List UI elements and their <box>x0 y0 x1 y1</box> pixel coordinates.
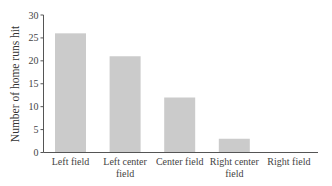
x-axis-labels: Left fieldLeft centerfieldCenter fieldRi… <box>52 156 311 179</box>
bar-center-field <box>164 98 195 153</box>
x-category-label: Right field <box>267 156 310 167</box>
y-tick-label: 0 <box>34 147 39 158</box>
bar-left-center-field <box>110 56 141 152</box>
x-category-label: Right center <box>210 156 260 167</box>
y-tick-label: 15 <box>29 78 39 89</box>
y-tick-label: 5 <box>34 124 39 135</box>
x-category-label: field <box>225 168 243 179</box>
y-tick-label: 25 <box>29 32 39 43</box>
y-axis-title: Number of home runs hit <box>9 25 21 142</box>
y-tick-label: 20 <box>29 55 39 66</box>
bar-chart: Number of home runs hit 051015202530 Lef… <box>0 0 332 186</box>
x-category-label: field <box>116 168 134 179</box>
y-axis-ticks: 051015202530 <box>29 10 44 159</box>
x-category-label: Left center <box>103 156 147 167</box>
bars <box>55 33 250 152</box>
x-category-label: Left field <box>52 156 89 167</box>
x-category-label: Center field <box>156 156 203 167</box>
y-tick-label: 30 <box>29 10 39 21</box>
bar-right-center-field <box>219 139 250 153</box>
y-axis-title-group: Number of home runs hit <box>9 25 21 142</box>
bar-left-field <box>55 33 86 152</box>
y-tick-label: 10 <box>29 101 39 112</box>
